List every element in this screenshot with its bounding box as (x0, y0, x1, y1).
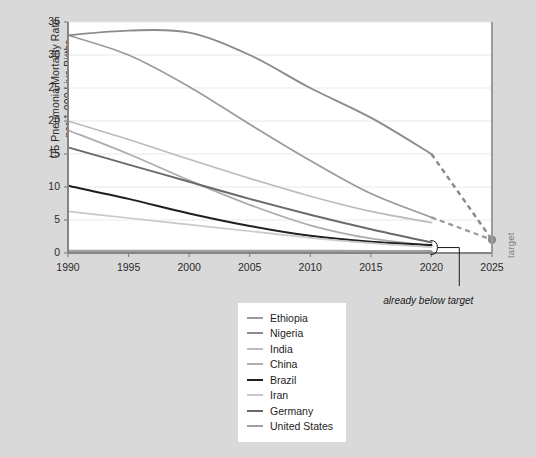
already-below-target-annotation: already below target (383, 295, 473, 306)
legend-swatch-icon (247, 332, 263, 334)
legend-swatch-icon (247, 363, 263, 365)
x-tick-label: 2015 (349, 261, 393, 273)
legend-swatch-icon (247, 348, 263, 350)
legend-item-nigeria[interactable]: Nigeria (238, 326, 346, 342)
y-tick-label: 20 (34, 114, 60, 126)
line-chart-svg (22, 14, 515, 286)
x-tick-label: 2020 (409, 261, 453, 273)
legend-item-china[interactable]: China (238, 357, 346, 373)
y-tick-label: 35 (34, 15, 60, 27)
legend-item-label: Nigeria (270, 327, 303, 339)
x-tick-label: 2000 (167, 261, 211, 273)
legend-item-label: Iran (270, 389, 288, 401)
y-tick-label: 0 (34, 246, 60, 258)
legend-swatch-icon (247, 410, 263, 412)
y-tick-label: 30 (34, 48, 60, 60)
legend-swatch-icon (247, 425, 263, 427)
legend-swatch-icon (247, 379, 263, 381)
x-tick-label: 2005 (228, 261, 272, 273)
chart-page: U5 Pneumonia Mortality Rate per 1,000 Li… (0, 0, 536, 457)
legend-item-brazil[interactable]: Brazil (238, 372, 346, 388)
chart-legend: EthiopiaNigeriaIndiaChinaBrazilIranGerma… (238, 303, 346, 442)
legend-item-label: India (270, 343, 293, 355)
legend-item-ethiopia[interactable]: Ethiopia (238, 310, 346, 326)
legend-swatch-icon (247, 317, 263, 319)
legend-item-label: Brazil (270, 374, 296, 386)
legend-item-label: Ethiopia (270, 312, 308, 324)
x-tick-label: 2010 (288, 261, 332, 273)
y-tick-label: 15 (34, 147, 60, 159)
legend-item-label: United States (270, 420, 333, 432)
y-tick-label: 25 (34, 81, 60, 93)
legend-item-germany[interactable]: Germany (238, 403, 346, 419)
legend-item-iran[interactable]: Iran (238, 388, 346, 404)
chart-plot-area: U5 Pneumonia Mortality Rate per 1,000 Li… (22, 14, 515, 286)
x-tick-label: 1990 (46, 261, 90, 273)
y-tick-label: 5 (34, 213, 60, 225)
target-marker-label: target (505, 232, 516, 258)
x-tick-label: 1995 (107, 261, 151, 273)
legend-item-label: China (270, 358, 297, 370)
legend-swatch-icon (247, 394, 263, 396)
legend-item-india[interactable]: India (238, 341, 346, 357)
x-tick-label: 2025 (470, 261, 514, 273)
y-tick-label: 10 (34, 180, 60, 192)
legend-item-label: Germany (270, 405, 313, 417)
legend-item-united-states[interactable]: United States (238, 419, 346, 435)
